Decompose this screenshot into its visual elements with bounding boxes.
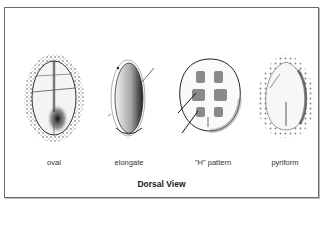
pyriform-shape-illustration [254, 52, 318, 142]
shape-label-pyriform: pyriform [250, 158, 320, 167]
shape-label-h-pattern: "H" pattern [178, 158, 248, 167]
oval-shape-illustration [22, 52, 86, 148]
shape-label-elongate: elongate [94, 158, 164, 167]
h-pattern-shape-illustration [174, 55, 246, 139]
shape-label-oval: oval [19, 158, 89, 167]
figure-title: Dorsal View [0, 179, 323, 189]
elongate-shape-illustration [106, 56, 156, 142]
